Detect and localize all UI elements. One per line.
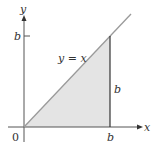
origin-label: 0	[12, 131, 19, 144]
x-axis-arrow-icon	[137, 125, 143, 130]
line-label: y = x	[57, 52, 87, 65]
side-label: b	[114, 83, 121, 96]
x-tick-label: b	[107, 131, 114, 144]
y-tick-label: b	[14, 30, 21, 43]
x-axis-label: x	[144, 121, 151, 134]
y-axis-label: y	[19, 3, 27, 16]
diagram: y x 0 b b b y = x	[0, 0, 155, 147]
